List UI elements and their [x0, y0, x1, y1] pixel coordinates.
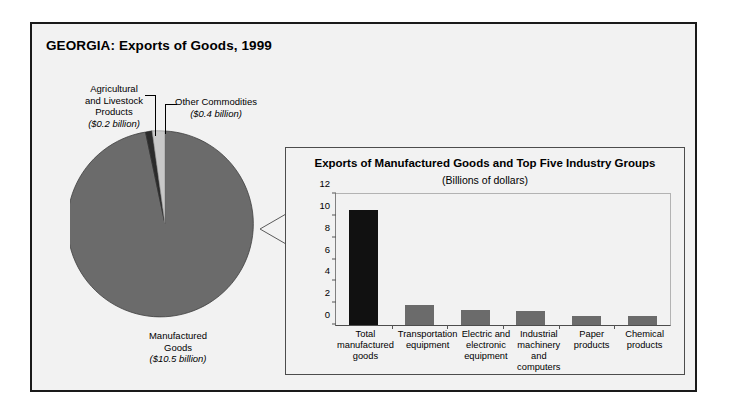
pie-label-manufactured-line1: Manufactured — [110, 330, 246, 342]
y-axis-tick-label: 6 — [325, 243, 336, 254]
y-axis-tick-mark — [332, 324, 336, 325]
inset-chart-subtitle: (Billions of dollars) — [286, 174, 684, 186]
figure-panel: GEORGIA: Exports of Goods, 1999 Agricult… — [30, 22, 697, 392]
x-axis-category-label-line: Industrial — [514, 329, 563, 340]
x-axis-category-label: Paperproducts — [565, 329, 618, 373]
y-axis-tick-mark — [332, 258, 336, 259]
bar-column[interactable] — [392, 194, 448, 325]
pie-label-agricultural-line1: Agricultural — [68, 83, 160, 95]
x-axis-category-label: Industrialmachinery andcomputers — [512, 329, 565, 373]
y-axis-tick-mark — [332, 236, 336, 237]
x-axis-category-label-line: Chemical — [620, 329, 669, 340]
y-axis-tick-label: 0 — [325, 309, 336, 320]
bar[interactable] — [572, 316, 601, 325]
pie-chart — [70, 129, 260, 319]
bar-chart-plot-area: 024681012 — [335, 193, 671, 326]
pie-label-other-line1: Other Commodities — [160, 96, 272, 108]
pie-label-manufactured-line2: Goods — [110, 342, 246, 354]
pie-label-agricultural-line2: and Livestock — [68, 95, 160, 107]
pie-label-agricultural: Agricultural and Livestock Products ($0.… — [68, 83, 160, 129]
pie-label-agricultural-amount: ($0.2 billion) — [68, 118, 160, 130]
x-axis-category-label-line: Paper — [567, 329, 616, 340]
x-axis-category-label: Chemicalproducts — [618, 329, 671, 373]
bar-column[interactable] — [559, 194, 615, 325]
bar[interactable] — [349, 210, 378, 325]
pie-label-other-commodities: Other Commodities ($0.4 billion) — [160, 96, 272, 119]
bar[interactable] — [628, 316, 657, 325]
pie-label-manufactured: Manufactured Goods ($10.5 billion) — [110, 330, 246, 365]
pie-label-manufactured-amount: ($10.5 billion) — [110, 353, 246, 365]
x-axis-category-label-line: goods — [337, 351, 394, 362]
x-axis-category-label-line: manufactured — [337, 340, 394, 351]
bar[interactable] — [516, 311, 545, 325]
y-axis-tick-label: 8 — [325, 221, 336, 232]
x-axis-category-label: Electric andelectronicequipment — [459, 329, 512, 373]
y-axis-tick-mark — [332, 193, 336, 194]
x-axis-category-label-line: Transportation — [398, 329, 458, 340]
bar-column[interactable] — [614, 194, 670, 325]
bar-column[interactable] — [447, 194, 503, 325]
pie-label-agricultural-line3: Products — [68, 106, 160, 118]
bar-column[interactable] — [503, 194, 559, 325]
x-axis-category-label-line: products — [620, 340, 669, 351]
bar-series — [336, 194, 670, 325]
x-axis-category-label-line: Total — [337, 329, 394, 340]
x-axis-category-label-line: equipment — [461, 351, 510, 362]
bar[interactable] — [461, 310, 490, 325]
y-axis-tick-mark — [332, 280, 336, 281]
x-axis-category-label-line: Electric and — [461, 329, 510, 340]
pie-label-other-amount: ($0.4 billion) — [160, 108, 272, 120]
x-axis-category-label: Totalmanufacturedgoods — [335, 329, 396, 373]
x-axis-category-label-line: equipment — [398, 340, 458, 351]
bar[interactable] — [405, 305, 434, 325]
x-axis-category-label: Transportationequipment — [396, 329, 460, 373]
x-axis-category-label-line: products — [567, 340, 616, 351]
y-axis-tick-mark — [332, 214, 336, 215]
y-axis-tick-label: 10 — [319, 199, 336, 210]
y-axis-tick-mark — [332, 302, 336, 303]
bar-column[interactable] — [336, 194, 392, 325]
x-axis-category-label-line: computers — [514, 362, 563, 373]
inset-bar-chart-panel: Exports of Manufactured Goods and Top Fi… — [285, 147, 685, 375]
x-axis-category-label-line: machinery and — [514, 340, 563, 362]
y-axis-tick-label: 12 — [319, 178, 336, 189]
x-axis-category-label-line: electronic — [461, 340, 510, 351]
y-axis-tick-label: 4 — [325, 265, 336, 276]
y-axis-tick-label: 2 — [325, 287, 336, 298]
bar-chart-x-axis-labels: TotalmanufacturedgoodsTransportationequi… — [335, 329, 671, 373]
inset-chart-title: Exports of Manufactured Goods and Top Fi… — [286, 157, 684, 169]
